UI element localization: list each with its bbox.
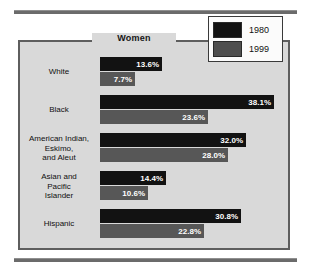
bar-group-row: American Indian, Eskimo, and Aleut 32.0%… [20,130,288,166]
bar-group-row: Asian and Pacific Islander 14.4% 10.6% [20,168,288,204]
bar-1999: 23.6% [100,110,208,124]
gray-swatch-icon [213,41,242,57]
bottom-divider-rule [14,258,297,262]
bar-1999: 10.6% [100,186,148,200]
bar-1980: 38.1% [100,95,274,109]
category-label: Black [20,105,98,115]
plot-area: White 13.6% 7.7% Black 38.1% 23.6% [20,54,288,242]
category-label: Hispanic [20,219,98,229]
bar-value-label: 38.1% [248,98,271,107]
chart-legend: 1980 1999 [208,16,283,62]
dark-swatch-icon [213,22,242,38]
bar-group-row: Black 38.1% 23.6% [20,92,288,128]
bar-value-label: 32.0% [220,136,243,145]
bar-1999: 7.7% [100,72,135,86]
top-divider-rule [14,10,297,14]
chart-panel: Women White 13.6% 7.7% Black 38.1% 23.6% [18,40,290,250]
category-label: American Indian, Eskimo, and Aleut [20,134,98,163]
bar-group-row: Hispanic 30.8% 22.8% [20,206,288,242]
bar-value-label: 22.8% [178,227,201,236]
bar-pair: 38.1% 23.6% [100,95,286,124]
legend-label: 1999 [249,44,269,54]
bar-value-label: 10.6% [122,189,145,198]
bar-value-label: 7.7% [114,75,132,84]
bar-value-label: 14.4% [140,174,163,183]
bar-value-label: 30.8% [215,212,238,221]
bar-1980: 14.4% [100,171,166,185]
chart-title: Women [92,33,176,43]
category-label: White [20,67,98,77]
bar-pair: 32.0% 28.0% [100,133,286,162]
bar-1980: 32.0% [100,133,246,147]
legend-item-1999: 1999 [213,40,278,58]
bar-1980: 13.6% [100,57,162,71]
category-label: Asian and Pacific Islander [20,172,98,201]
bar-1999: 28.0% [100,148,228,162]
legend-label: 1980 [249,25,269,35]
bar-1999: 22.8% [100,224,204,238]
bar-pair: 14.4% 10.6% [100,171,286,200]
bar-value-label: 23.6% [182,113,205,122]
legend-item-1980: 1980 [213,21,278,39]
bar-1980: 30.8% [100,209,241,223]
bar-value-label: 28.0% [202,151,225,160]
bar-value-label: 13.6% [136,60,159,69]
bar-pair: 30.8% 22.8% [100,209,286,238]
